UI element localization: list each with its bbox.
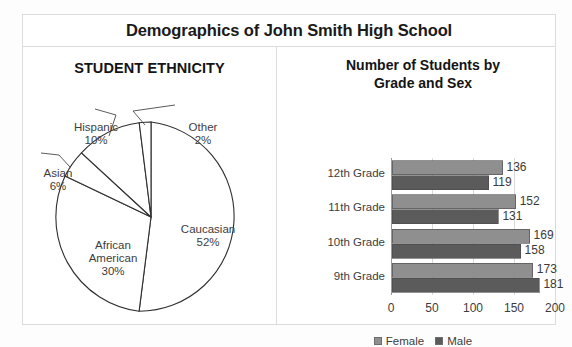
- pie-label-caucasian-pct: 52%: [169, 236, 247, 249]
- bar-male-12th-grade: [392, 176, 489, 190]
- pie-label-african-american: African American 30%: [71, 239, 155, 279]
- legend-entry-female[interactable]: Female: [374, 335, 424, 347]
- pie-label-hispanic-pct: 10%: [57, 134, 135, 147]
- legend-swatch-icon: [374, 337, 382, 345]
- x-axis-tick-label: 200: [535, 301, 572, 315]
- x-axis-tick-label: 150: [494, 301, 534, 315]
- bar-female-9th-grade: [392, 263, 533, 277]
- bar-chart-legend: FemaleMale: [278, 335, 568, 347]
- bar-chart-panel: Number of Students by Grade and Sex 12th…: [278, 47, 555, 324]
- bar-value-label: 131: [502, 209, 522, 223]
- bar-male-9th-grade: [392, 278, 539, 292]
- bar-category-label: 10th Grade: [327, 236, 385, 248]
- pie-label-caucasian: Caucasian 52%: [169, 223, 247, 249]
- bar-value-label: 169: [534, 228, 554, 242]
- page-title: Demographics of John Smith High School: [126, 21, 452, 40]
- bar-value-label: 152: [520, 194, 540, 208]
- bar-chart-graphic: [278, 47, 572, 326]
- pie-slice-caucasian: [139, 122, 234, 311]
- bar-female-12th-grade: [392, 161, 503, 175]
- bar-value-label: 181: [543, 277, 563, 291]
- pie-label-asian-pct: 6%: [29, 180, 87, 193]
- pie-label-other: Other 2%: [173, 121, 233, 147]
- bar-category-label: 12th Grade: [327, 167, 385, 179]
- charts-row: STUDENT ETHNICITY Hispanic: [23, 47, 555, 324]
- pie-label-african-pct: 30%: [71, 265, 155, 278]
- figure-frame: Demographics of John Smith High School S…: [22, 14, 556, 325]
- pie-label-african-name-2: American: [71, 252, 155, 265]
- bar-female-10th-grade: [392, 229, 530, 243]
- legend-swatch-icon: [435, 337, 443, 345]
- bar-chart-plot: 12th Grade13611911th Grade15213110th Gra…: [278, 47, 572, 326]
- pie-chart-panel: STUDENT ETHNICITY Hispanic: [23, 47, 277, 324]
- bar-male-10th-grade: [392, 244, 521, 258]
- pie-label-hispanic: Hispanic 10%: [57, 121, 135, 147]
- bar-value-label: 136: [507, 160, 527, 174]
- bar-value-label: 173: [537, 262, 557, 276]
- pie-label-other-pct: 2%: [173, 134, 233, 147]
- figure-title-row: Demographics of John Smith High School: [23, 15, 555, 47]
- bar-value-label: 119: [493, 175, 512, 189]
- bar-male-11th-grade: [392, 210, 498, 224]
- legend-label: Female: [386, 335, 424, 347]
- bar-category-label: 9th Grade: [334, 270, 385, 282]
- legend-label: Male: [447, 335, 472, 347]
- pie-label-african-name-1: African: [71, 239, 155, 252]
- x-axis-tick-label: 100: [453, 301, 493, 315]
- pie-leader-asian: [41, 153, 70, 167]
- pie-label-other-name: Other: [173, 121, 233, 134]
- x-axis-tick-label: 0: [371, 301, 411, 315]
- pie-label-caucasian-name: Caucasian: [169, 223, 247, 236]
- x-axis-tick-label: 50: [412, 301, 452, 315]
- pie-label-asian-name: Asian: [29, 167, 87, 180]
- pie-label-asian: Asian 6%: [29, 167, 87, 193]
- pie-label-hispanic-name: Hispanic: [57, 121, 135, 134]
- bar-category-label: 11th Grade: [328, 201, 385, 213]
- bar-value-label: 158: [525, 243, 545, 257]
- bar-female-11th-grade: [392, 195, 516, 209]
- legend-entry-male[interactable]: Male: [435, 335, 472, 347]
